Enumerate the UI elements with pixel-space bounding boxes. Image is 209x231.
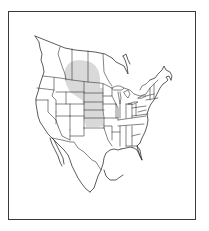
range-map [0,0,209,231]
range-shading [65,60,104,127]
